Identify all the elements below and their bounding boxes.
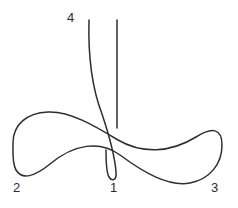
branch-label-1: 1	[110, 181, 117, 194]
branch-label-3: 3	[211, 181, 218, 194]
branch-label-4: 4	[67, 11, 74, 24]
branch-label-2: 2	[13, 181, 20, 194]
curve-canvas	[0, 0, 238, 208]
descending-branch-4-path	[89, 20, 116, 180]
curve-figure: 4 2 1 3	[0, 0, 238, 208]
